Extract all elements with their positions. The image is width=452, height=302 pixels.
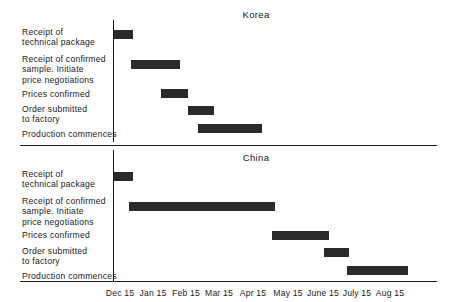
korea-row-label-receipt-technical-package: Receipt of technical package xyxy=(22,27,110,48)
x-tick-label-may-15: May 15 xyxy=(273,288,302,298)
china-row-label-receipt-confirmed-sample: Receipt of confirmed sample. Initiate pr… xyxy=(22,196,114,227)
china-bar-receipt-technical-package xyxy=(114,172,133,181)
gantt-chart-figure: Korea Receipt of technical package Recei… xyxy=(0,0,452,302)
china-row-label-production-commences: Production commences xyxy=(22,271,118,281)
x-tick-label-aug-15: Aug 15 xyxy=(376,288,404,298)
korea-bar-receipt-confirmed-sample xyxy=(131,60,180,69)
panel-title-korea: Korea xyxy=(242,9,269,20)
china-bar-order-submitted-to-factory xyxy=(324,248,349,257)
korea-row-label-production-commences: Production commences xyxy=(22,129,118,139)
china-bar-production-commences xyxy=(347,266,408,275)
x-tick-label-dec-15: Dec 15 xyxy=(106,288,134,298)
korea-bar-prices-confirmed xyxy=(161,89,188,98)
x-tick-label-june-15: June 15 xyxy=(307,288,339,298)
x-tick-label-feb-15: Feb 15 xyxy=(172,288,200,298)
korea-bar-order-submitted-to-factory xyxy=(188,106,215,115)
x-axis-line xyxy=(20,281,437,282)
china-row-label-receipt-technical-package: Receipt of technical package xyxy=(22,169,110,190)
korea-row-label-order-submitted-to-factory: Order submitted to factory xyxy=(22,104,114,125)
panel-title-china: China xyxy=(243,152,270,163)
x-tick-label-apr-15: Apr 15 xyxy=(240,288,267,298)
korea-row-label-receipt-confirmed-sample: Receipt of confirmed sample. Initiate pr… xyxy=(22,54,114,85)
panel-divider-line xyxy=(20,145,437,146)
x-tick-label-jan-15: Jan 15 xyxy=(139,288,166,298)
china-bar-receipt-confirmed-sample xyxy=(129,202,276,211)
china-row-label-prices-confirmed: Prices confirmed xyxy=(22,230,114,240)
korea-bar-production-commences xyxy=(198,124,262,133)
china-bar-prices-confirmed xyxy=(272,231,329,240)
korea-row-label-prices-confirmed: Prices confirmed xyxy=(22,89,114,99)
x-tick-label-july-15: July 15 xyxy=(343,288,372,298)
x-tick-label-mar-15: Mar 15 xyxy=(205,288,233,298)
china-row-label-order-submitted-to-factory: Order submitted to factory xyxy=(22,246,114,267)
korea-bar-receipt-technical-package xyxy=(114,30,133,39)
